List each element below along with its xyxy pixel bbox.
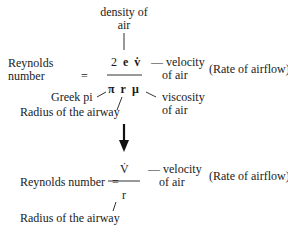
top-velocity-line2: of air [151, 69, 205, 82]
bottom-rate-note: (Rate of airflow) [209, 170, 288, 183]
denominator-pi-symbol: π [108, 82, 115, 96]
top-lhs-line2: number [8, 70, 53, 83]
viscosity-pointer-line [146, 92, 156, 97]
top-lhs-label: Reynolds number [8, 57, 53, 83]
numerator-two: 2 [111, 55, 117, 69]
bottom-lhs-label: Reynolds number = [20, 176, 119, 189]
bottom-velocity-line2: of air [148, 176, 202, 189]
bottom-radius-pointer-line [113, 202, 116, 211]
denominator-radius-symbol: r [121, 82, 126, 96]
top-velocity-label: — velocity of air [151, 56, 205, 82]
pi-pointer-line [97, 92, 106, 97]
bottom-numerator: V̇ [120, 163, 129, 176]
viscosity-line2: of air [162, 104, 205, 117]
bottom-lhs-text: Reynolds number [20, 175, 105, 189]
numerator-density-symbol: e [123, 55, 128, 69]
top-rate-note: (Rate of airflow) [209, 63, 288, 76]
bottom-velocity-label: — velocity of air [148, 163, 202, 189]
bottom-radius-label: Radius of the airway [20, 212, 120, 225]
top-numerator: 2 e v̇ [111, 56, 140, 69]
bottom-denominator: r [122, 189, 126, 202]
top-equals-sign: = [81, 70, 88, 83]
denominator-viscosity-symbol: μ [132, 82, 139, 96]
top-radius-label: Radius of the airway [20, 106, 120, 119]
viscosity-label: viscosity of air [162, 91, 205, 117]
numerator-velocity-symbol: v̇ [134, 55, 140, 69]
density-label: density of air [98, 6, 150, 32]
bottom-equals-sign: = [108, 175, 119, 189]
greek-pi-label: Greek pi [51, 91, 93, 104]
top-denominator: π r μ [108, 83, 139, 96]
down-arrow-head [119, 140, 129, 152]
density-label-line2: air [98, 19, 150, 32]
